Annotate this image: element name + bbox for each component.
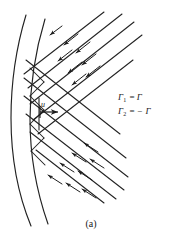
equation-operator-1: =	[128, 92, 137, 102]
shear-line-l6	[36, 150, 104, 203]
flow-arrow-u4	[82, 54, 96, 65]
figure-caption: (a)	[0, 218, 182, 229]
gamma-value-2: − Γ	[137, 106, 151, 116]
gamma-subscript-1: 1	[123, 97, 127, 103]
boundary-curves	[11, 15, 48, 226]
velocity-label: u	[41, 100, 45, 109]
flow-arrow-l2	[72, 153, 86, 162]
shear-line-u5	[24, 12, 104, 74]
flow-arrow-u1	[64, 34, 78, 45]
figure-container: u Γ1=Γ Γ2=− Γ (a)	[0, 0, 182, 244]
flow-arrow-l8	[82, 189, 96, 198]
gamma-subscript-2: 2	[123, 111, 127, 117]
flow-arrow-u7	[72, 74, 86, 85]
gamma-value-1: Γ	[137, 92, 142, 102]
boundary-curve-left	[11, 15, 31, 226]
flow-arrow-l7	[66, 183, 80, 192]
circulation-equations: Γ1=Γ Γ2=− Γ	[118, 92, 180, 120]
flow-arrow-l3	[90, 159, 104, 168]
lattice-seg-6	[31, 138, 44, 151]
vortex-sheet-diagram	[0, 0, 182, 244]
shear-line-l5	[30, 132, 116, 199]
flow-arrow-l5	[78, 171, 92, 180]
equation-gamma-1: Γ1=Γ	[118, 92, 180, 106]
shear-line-u1	[28, 14, 122, 88]
flow-arrow-l1	[84, 143, 98, 152]
equation-gamma-2: Γ2=− Γ	[118, 106, 180, 120]
flow-arrow-l6	[48, 175, 62, 184]
flow-arrow-u5	[68, 62, 82, 73]
shear-line-l1	[26, 60, 120, 134]
flow-arrow-u6	[86, 66, 100, 77]
equation-operator-2: =	[128, 106, 137, 116]
flow-arrow-u8	[50, 26, 62, 35]
flow-arrow-u2	[76, 42, 90, 53]
